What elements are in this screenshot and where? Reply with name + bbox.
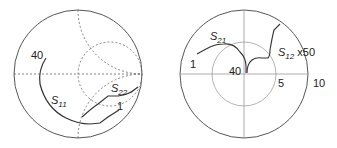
polar-chart: 1 S21 40 S12 x50 5 10: [180, 10, 325, 138]
inner-ring-label: 5: [278, 77, 284, 89]
s22-label: S22: [111, 82, 128, 97]
s12-label: S12 x50: [278, 46, 315, 61]
diagram-canvas: 40 S11 S22 1 1 S21 40 S12 x50 5 10: [0, 0, 337, 148]
smith-reactance-arc-neg: [78, 74, 142, 138]
s22-end-label: 1: [117, 100, 123, 112]
s21-label: S21: [210, 30, 226, 45]
end-freq-label: 40: [229, 65, 241, 77]
smith-chart: 40 S11 S22 1: [14, 10, 142, 138]
s11-start-label: 40: [31, 49, 43, 61]
smith-reactance-arc-pos: [78, 10, 142, 74]
s11-trace: [40, 58, 119, 124]
outer-ring-label: 10: [313, 77, 325, 89]
s11-label: S11: [51, 94, 67, 109]
s21-start-label: 1: [190, 58, 196, 70]
